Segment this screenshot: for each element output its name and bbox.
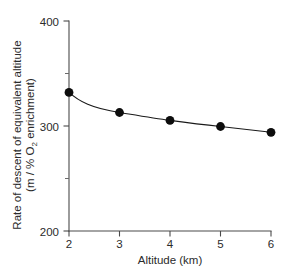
data-point: [115, 108, 124, 117]
x-axis-title: Altitude (km): [138, 254, 203, 266]
y-tick-label-300: 300: [40, 121, 59, 133]
y-axis-title-line2: (m / % O2 enrichment): [24, 78, 39, 192]
y-tick-label-200: 200: [40, 226, 59, 238]
y-axis-title-line2-pre: (m / % O: [24, 146, 36, 191]
x-tick-label-3: 3: [116, 238, 122, 250]
x-tick-label-4: 4: [167, 238, 174, 250]
x-tick-label-5: 5: [217, 238, 223, 250]
x-tick-label-2: 2: [66, 238, 72, 250]
chart-figure: 400 300 200 2 3 4 5 6 Altitude (km) Rate…: [0, 0, 291, 272]
x-tick-label-6: 6: [268, 238, 274, 250]
data-point: [166, 116, 175, 125]
data-point: [267, 128, 276, 137]
y-axis-title-line2-post: enrichment): [24, 78, 36, 142]
y-axis-title-line1: Rate of descent of equivalent altitude: [11, 40, 23, 229]
chart-plot-area: 400 300 200 2 3 4 5 6 Altitude (km) Rate…: [0, 0, 291, 272]
data-curve: [69, 92, 271, 132]
data-point: [65, 88, 74, 97]
data-point: [216, 122, 225, 131]
y-tick-label-400: 400: [40, 16, 59, 28]
